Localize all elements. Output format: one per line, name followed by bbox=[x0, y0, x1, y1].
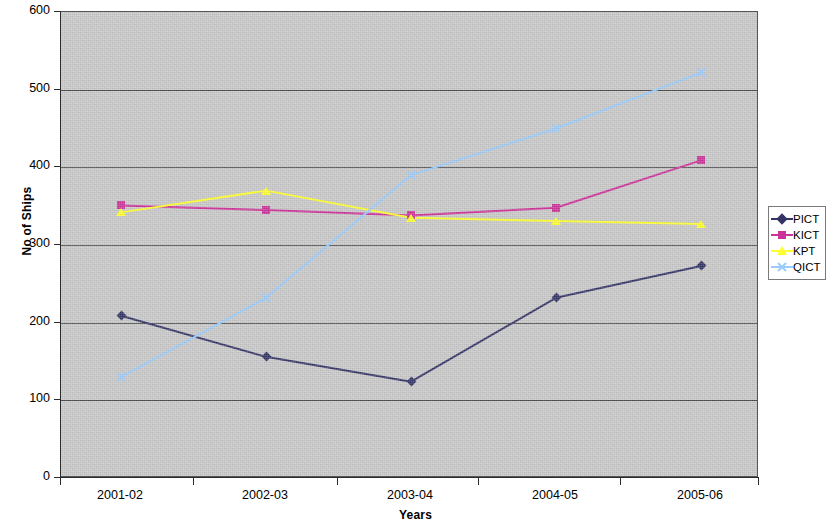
y-tick-mark bbox=[54, 244, 60, 245]
y-axis-title: No of Ships bbox=[20, 166, 34, 276]
x-tick-label: 2001-02 bbox=[60, 489, 180, 502]
legend-swatch-x-icon bbox=[771, 261, 793, 273]
y-tick-mark bbox=[54, 322, 60, 323]
y-tick-mark bbox=[54, 399, 60, 400]
series-layer bbox=[61, 12, 759, 478]
x-tick-mark bbox=[337, 478, 338, 485]
x-tick-mark bbox=[193, 478, 194, 485]
x-tick-mark bbox=[478, 478, 479, 485]
legend-swatch-diamond-icon bbox=[771, 213, 793, 225]
series-line-pict bbox=[121, 266, 701, 382]
y-tick-label: 200 bbox=[0, 315, 50, 327]
x-tick-label: 2005-06 bbox=[640, 489, 760, 502]
data-point-qict bbox=[117, 373, 125, 381]
x-tick-label: 2002-03 bbox=[205, 489, 325, 502]
y-tick-mark bbox=[54, 89, 60, 90]
legend-item-kict[interactable]: KICT bbox=[771, 227, 822, 243]
data-point-qict bbox=[262, 294, 270, 302]
legend-item-pict[interactable]: PICT bbox=[771, 211, 822, 227]
y-tick-mark bbox=[54, 11, 60, 12]
legend-item-qict[interactable]: QICT bbox=[771, 259, 822, 275]
y-tick-label: 100 bbox=[0, 392, 50, 404]
line-chart: 6005004003002001000 2001-022002-032003-0… bbox=[0, 0, 831, 524]
series-line-kict bbox=[121, 160, 701, 215]
legend-item-kpt[interactable]: KPT bbox=[771, 243, 822, 259]
legend-label: QICT bbox=[793, 261, 820, 273]
x-tick-mark bbox=[620, 478, 621, 485]
y-tick-label: 500 bbox=[0, 82, 50, 94]
legend-label: KPT bbox=[793, 245, 815, 257]
x-tick-label: 2003-04 bbox=[350, 489, 470, 502]
legend-label: KICT bbox=[793, 229, 819, 241]
legend-swatch-triangle-icon bbox=[771, 245, 793, 257]
x-axis-title: Years bbox=[0, 508, 831, 522]
series-line-qict bbox=[121, 73, 701, 377]
x-tick-mark bbox=[60, 478, 61, 485]
x-tick-mark bbox=[758, 478, 759, 485]
y-tick-label: 0 bbox=[0, 470, 50, 482]
plot-area bbox=[60, 11, 758, 477]
y-axis-line bbox=[60, 11, 61, 478]
data-point-qict bbox=[697, 69, 705, 77]
y-tick-mark bbox=[54, 166, 60, 167]
legend-swatch-square-icon bbox=[771, 229, 793, 241]
x-tick-label: 2004-05 bbox=[495, 489, 615, 502]
legend-label: PICT bbox=[793, 213, 819, 225]
legend: PICTKICTKPTQICT bbox=[768, 206, 826, 280]
x-axis-line bbox=[60, 477, 759, 478]
y-tick-label: 600 bbox=[0, 4, 50, 16]
